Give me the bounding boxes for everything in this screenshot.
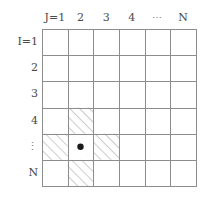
grid-index-figure: J=1234⋯N I=1234⋮N <box>0 0 206 200</box>
hatched-cell-r5-c3 <box>93 134 119 160</box>
hatched-cell-r5-c1 <box>42 134 68 160</box>
hatched-cell-r4-c2 <box>68 108 94 134</box>
grid-svg <box>0 0 206 200</box>
center-marker-layer <box>77 144 83 150</box>
hatched-cell-r6-c2 <box>68 160 94 186</box>
grid-lines-layer <box>42 29 197 187</box>
center-point-marker <box>77 144 83 150</box>
